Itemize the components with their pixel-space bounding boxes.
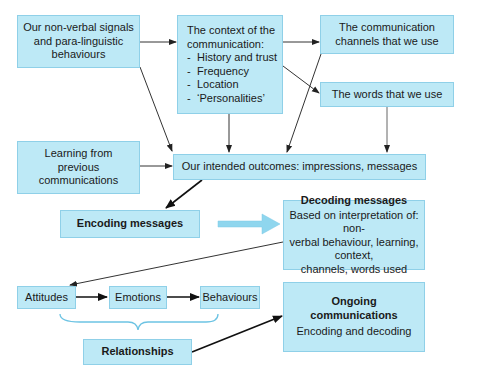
node-text: and para-linguistic xyxy=(34,35,123,49)
arrow-nonverbal-to-outcomes xyxy=(140,67,172,151)
node-text: Encoding and decoding xyxy=(297,325,412,339)
node-title: Relationships xyxy=(101,345,173,359)
node-attitudes: Attitudes xyxy=(17,286,76,309)
node-context: The context of the communication: Histor… xyxy=(177,15,283,114)
arrow-context-to-words xyxy=(283,66,319,93)
node-text: verbal behaviour, learning, context, xyxy=(284,236,424,263)
node-title: Encoding messages xyxy=(77,217,183,231)
node-learning: Learning from previous communications xyxy=(17,141,140,194)
node-text: Our non-verbal signals xyxy=(23,21,134,35)
grouping-brace xyxy=(60,314,218,330)
context-item: History and trust xyxy=(187,51,277,65)
node-title: communications xyxy=(310,309,397,323)
context-list: History and trust Frequency Location ‘Pe… xyxy=(187,51,277,105)
node-text: The words that we use xyxy=(332,88,443,102)
node-channels: The communication channels that we use xyxy=(320,15,454,54)
node-text: Learning from xyxy=(45,147,113,161)
node-text: channels that we use xyxy=(335,35,438,49)
node-text: Our intended outcomes: impressions, mess… xyxy=(182,160,417,174)
node-title: communication: xyxy=(187,38,264,52)
node-text: channels, words used xyxy=(301,263,407,277)
arrow-channels-to-outcomes xyxy=(287,54,321,152)
block-arrow-encoding-to-decoding xyxy=(218,214,280,234)
node-title: Decoding messages xyxy=(301,194,407,208)
node-nonverbal-signals: Our non-verbal signals and para-linguist… xyxy=(17,15,140,68)
node-words: The words that we use xyxy=(320,82,454,107)
node-text: Emotions xyxy=(115,291,161,305)
arrow-outcomes-to-encoding xyxy=(166,180,202,208)
arrow-decoding-to-attitudes xyxy=(70,242,283,285)
context-item: ‘Personalities’ xyxy=(187,92,277,106)
node-encoding-messages: Encoding messages xyxy=(60,210,200,238)
node-text: communications xyxy=(39,174,118,188)
node-text: Attitudes xyxy=(25,291,68,305)
node-text: behaviours xyxy=(52,48,106,62)
node-title: Ongoing xyxy=(331,295,376,309)
node-decoding-messages: Decoding messages Based on interpretatio… xyxy=(283,200,425,270)
node-text: The communication xyxy=(339,21,435,35)
context-item: Frequency xyxy=(187,65,277,79)
node-text: previous xyxy=(58,161,100,175)
node-text: Behaviours xyxy=(202,291,257,305)
node-relationships: Relationships xyxy=(83,339,192,365)
node-ongoing-communications: Ongoing communications Encoding and deco… xyxy=(283,282,425,352)
node-intended-outcomes: Our intended outcomes: impressions, mess… xyxy=(173,154,426,180)
node-title: The context of the xyxy=(187,24,275,38)
node-emotions: Emotions xyxy=(109,286,167,309)
node-behaviours: Behaviours xyxy=(200,286,260,309)
context-item: Location xyxy=(187,78,277,92)
node-text: Based on interpretation of: non- xyxy=(284,209,424,236)
